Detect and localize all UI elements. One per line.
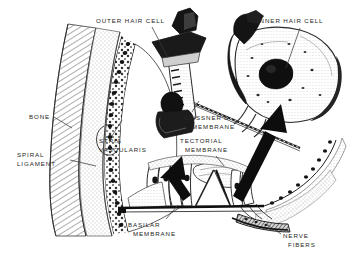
cochlea-diagram: OUTER HAIR CELL INNER HAIR CELL BONE STR… (0, 0, 352, 261)
label-spiral-ligament: SPIRAL LIGAMENT (17, 150, 56, 168)
label-inner-hair-cell: INNER HAIR CELL (257, 16, 323, 25)
label-stria-vascularis-line2: VASCULARIS (99, 145, 147, 154)
label-tectorial-membrane: TECTORIAL MEMBRANE (180, 136, 228, 154)
label-nerve-fibers: NERVE FIBERS (283, 231, 316, 249)
label-spiral-ligament-line2: LIGAMENT (17, 159, 56, 168)
label-spiral-ligament-line1: SPIRAL (17, 150, 56, 159)
label-nerve-fibers-line2: FIBERS (283, 240, 316, 249)
organ-of-corti-structure (128, 155, 254, 208)
label-nerve-fibers-line1: NERVE (283, 231, 316, 240)
label-inner-hair-cell-line1: INNER HAIR CELL (257, 16, 323, 25)
label-stria-vascularis-line1: STRIA (99, 136, 147, 145)
inner-hair-cell-inset (228, 10, 342, 137)
label-stria-vascularis: STRIA VASCULARIS (99, 136, 147, 154)
label-reissners-membrane-line1: REISSNER'S (183, 113, 235, 122)
label-outer-hair-cell: OUTER HAIR CELL (96, 16, 165, 25)
label-tectorial-membrane-line1: TECTORIAL (180, 136, 228, 145)
label-reissners-membrane-line2: MEMBRANE (183, 122, 235, 131)
label-bone-line1: BONE (29, 112, 50, 121)
label-reissners-membrane: REISSNER'S MEMBRANE (183, 113, 235, 131)
diagram-artwork (0, 0, 352, 261)
label-bone: BONE (29, 112, 50, 121)
label-basilar-membrane-line1: BASILAR (128, 220, 176, 229)
label-tectorial-membrane-line2: MEMBRANE (180, 145, 228, 154)
label-basilar-membrane-line2: MEMBRANE (128, 229, 176, 238)
arrow-to-inner-hair-cell-inset (233, 104, 287, 202)
label-outer-hair-cell-line1: OUTER HAIR CELL (96, 16, 165, 25)
label-basilar-membrane: BASILAR MEMBRANE (128, 220, 176, 238)
